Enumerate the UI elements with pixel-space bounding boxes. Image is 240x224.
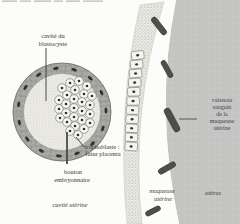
- epithelium-cell: [125, 133, 138, 142]
- uterus-region: [166, 0, 240, 224]
- epithelium-cell: [130, 60, 143, 70]
- label-bouton-line1: bouton: [64, 168, 83, 175]
- epithelium-cell: [127, 87, 140, 96]
- epithelium-cell: [125, 142, 138, 151]
- epithelium-cell: [131, 50, 144, 60]
- label-vaisseau-line5: utérine: [214, 125, 231, 131]
- label-vaisseau-line2: sanguin: [213, 104, 232, 110]
- label-vaisseau-line4: muqueuse: [210, 118, 235, 124]
- epithelium-cell: [125, 124, 138, 133]
- icm-cell: [83, 82, 92, 91]
- epithelium-cell: [126, 106, 139, 115]
- label-vaisseau-line3: de la: [216, 111, 228, 117]
- icm-cell: [78, 98, 87, 107]
- label-bouton-line2: embryonnaire: [54, 176, 90, 183]
- icm-cell: [80, 90, 89, 99]
- label-trophoblaste-line2: futur placenta: [85, 150, 120, 157]
- figure-blastocyst-implantation: cavité du blastocyste trophoblaste : fut…: [0, 0, 240, 224]
- label-uterus: utérus: [205, 189, 221, 196]
- label-muqueuse-line1: muqueuse: [149, 187, 175, 194]
- label-vaisseau-line1: vaisseau: [212, 97, 232, 103]
- epithelium-cell: [129, 69, 142, 78]
- label-trophoblaste-line1: trophoblaste :: [85, 143, 120, 150]
- icm-cell: [63, 118, 72, 127]
- icm-cell: [75, 77, 84, 86]
- label-cavite-uterine: cavité utérine: [53, 201, 88, 208]
- epithelium-cell: [126, 115, 139, 124]
- label-cavite-blastocyste-line1: cavité du: [41, 32, 65, 39]
- icm-cell: [71, 86, 80, 95]
- icm-cell: [70, 95, 79, 104]
- icm-cell: [74, 131, 83, 140]
- icm-cell: [86, 101, 95, 110]
- diagram-canvas: cavité du blastocyste trophoblaste : fut…: [0, 0, 240, 224]
- icm-cell: [78, 116, 87, 125]
- icm-cell: [86, 110, 95, 119]
- epithelium-cell: [128, 78, 141, 87]
- icm-cell: [88, 92, 97, 101]
- icm-cell: [70, 104, 79, 113]
- label-cavite-blastocyste-line2: blastocyste: [39, 40, 68, 47]
- epithelium-cell: [127, 97, 139, 105]
- icm-cell: [78, 107, 87, 116]
- label-muqueuse-line2: utérine: [154, 195, 172, 202]
